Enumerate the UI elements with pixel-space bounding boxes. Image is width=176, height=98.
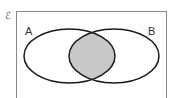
set-b-label: B — [148, 25, 155, 37]
set-a-label: A — [25, 25, 33, 37]
universal-set-symbol: ℰ — [5, 10, 11, 21]
venn-diagram: ℰ A B — [0, 0, 176, 98]
